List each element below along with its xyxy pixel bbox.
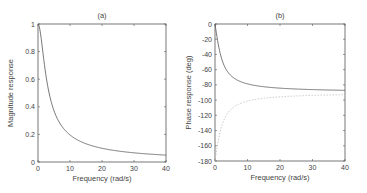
phase-plot: 0102030400-20-40-60-80-100-120-140-160-1…: [184, 11, 349, 182]
phase-dashed-line: [215, 95, 345, 161]
x-tick-label: 20: [276, 164, 284, 171]
y-tick-label: 0: [208, 21, 212, 28]
y-tick-label: 0.4: [25, 103, 35, 110]
x-tick-label: 30: [130, 165, 138, 172]
x-tick-label: 0: [36, 165, 40, 172]
x-tick-label: 10: [244, 164, 252, 171]
phase-solid-line: [215, 24, 345, 90]
y-axis-label: Magnitude response: [6, 59, 15, 127]
y-tick-label: 0: [31, 159, 35, 166]
y-tick-label: 1: [31, 21, 35, 28]
x-axis-label: Frequency (rad/s): [72, 174, 132, 183]
axes-box: [215, 24, 345, 161]
x-tick-label: 40: [341, 164, 349, 171]
chart-title: (a): [97, 11, 107, 20]
y-tick-label: -160: [198, 142, 212, 149]
y-tick-label: -100: [198, 97, 212, 104]
figure: 01020304000.20.40.60.81(a)Frequency (rad…: [0, 0, 367, 193]
magnitude-line: [38, 24, 166, 155]
y-tick-label: -80: [202, 81, 212, 88]
magnitude-plot: 01020304000.20.40.60.81(a)Frequency (rad…: [6, 11, 170, 183]
y-tick-label: -20: [202, 36, 212, 43]
x-axis-label: Frequency (rad/s): [250, 173, 310, 182]
y-tick-label: -120: [198, 112, 212, 119]
y-tick-label: 0.6: [25, 76, 35, 83]
x-tick-label: 10: [66, 165, 74, 172]
y-tick-label: -180: [198, 158, 212, 165]
y-tick-label: -40: [202, 51, 212, 58]
x-tick-label: 30: [309, 164, 317, 171]
axes-box: [38, 24, 166, 162]
x-tick-label: 20: [98, 165, 106, 172]
chart-title: (b): [275, 11, 285, 20]
y-tick-label: -60: [202, 66, 212, 73]
y-axis-label: Phase response (deg): [184, 55, 193, 129]
x-tick-label: 40: [162, 165, 170, 172]
x-tick-label: 0: [213, 164, 217, 171]
y-tick-label: 0.2: [25, 131, 35, 138]
y-tick-label: 0.8: [25, 48, 35, 55]
y-tick-label: -140: [198, 127, 212, 134]
